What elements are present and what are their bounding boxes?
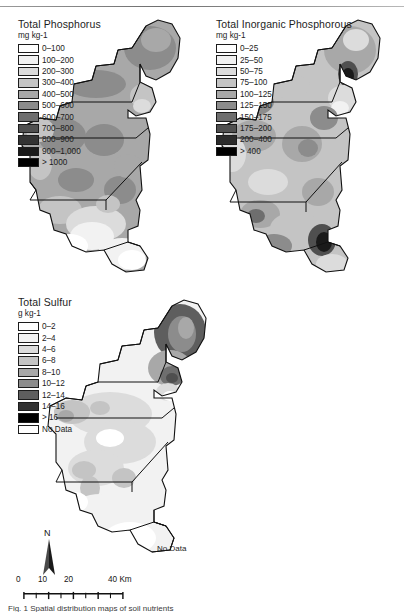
legend-swatch	[18, 112, 39, 121]
legend-item-label: 125–150	[240, 101, 272, 110]
legend-item-label: 10–12	[42, 379, 65, 388]
legend-swatch	[216, 78, 237, 87]
legend-title: Total Inorganic Phosphorous	[216, 18, 352, 30]
legend-item-label: 200–300	[42, 67, 74, 76]
legend-item-label: 100–200	[42, 56, 74, 65]
legend-item-label: 8–10	[42, 368, 60, 377]
legend-item: 200–300	[18, 66, 101, 77]
legend-item-label: 75–100	[240, 78, 267, 87]
legend-item-label: > 1000	[42, 158, 67, 167]
legend-total-phosphorus: Total Phosphorus mg kg-1 0–100 100–200 2…	[18, 18, 101, 168]
legend-item: No Data	[18, 424, 72, 435]
legend-swatch	[18, 44, 39, 53]
legend-swatch	[18, 402, 39, 411]
map-panel-total-phosphorus: Total Phosphorus mg kg-1 0–100 100–200 2…	[0, 14, 204, 282]
legend-item-label: 200–400	[240, 135, 272, 144]
legend-item: > 400	[216, 146, 352, 157]
legend-swatch	[18, 67, 39, 76]
legend-item: > 16	[18, 412, 72, 423]
legend-item: 2–4	[18, 332, 72, 343]
legend-swatch	[18, 425, 39, 434]
header-rule	[0, 6, 404, 7]
legend-item: 150–175	[216, 111, 352, 122]
legend-item: 12–14	[18, 389, 72, 400]
legend-item: > 1000	[18, 157, 101, 168]
legend-item: 175–200	[216, 123, 352, 134]
legend-swatch	[216, 112, 237, 121]
map-panel-total-inorganic-phosphorous: Total Inorganic Phosphorous mg kg-1 0–25…	[198, 14, 404, 282]
scale-bar: 0 10 20 40 Km	[16, 575, 138, 604]
legend-item: 800–900	[18, 134, 101, 145]
legend-swatch	[18, 356, 39, 365]
legend-swatch	[216, 90, 237, 99]
scale-bar-graphic	[16, 591, 138, 600]
legend-item-label: 150–175	[240, 113, 272, 122]
legend-item: 400–500	[18, 89, 101, 100]
scale-tick-label: 0	[16, 575, 21, 584]
legend-item: 600–700	[18, 111, 101, 122]
legend-item-label: 2–4	[42, 334, 56, 343]
legend-item: 4–6	[18, 344, 72, 355]
legend-item-label: 175–200	[240, 124, 272, 133]
legend-item: 100–125	[216, 89, 352, 100]
legend-class-list: 0–2 2–4 4–6 6–8 8–10	[18, 321, 72, 435]
legend-swatch	[216, 101, 237, 110]
legend-item: 10–12	[18, 378, 72, 389]
legend-item: 50–75	[216, 66, 352, 77]
legend-item-label: 0–2	[42, 322, 56, 331]
legend-item: 14–16	[18, 401, 72, 412]
legend-swatch	[18, 55, 39, 64]
map-annotation-no-data: No Data	[157, 544, 186, 553]
scale-tick-label: 20	[64, 575, 73, 584]
figure-root: Total Phosphorus mg kg-1 0–100 100–200 2…	[0, 0, 404, 612]
legend-item-label: 400–500	[42, 90, 74, 99]
legend-item-label: 600–700	[42, 113, 74, 122]
legend-item: 0–2	[18, 321, 72, 332]
legend-item-label: 900–1,000	[42, 147, 81, 156]
legend-item: 100–200	[18, 54, 101, 65]
legend-class-list: 0–25 25–50 50–75 75–100 100–125	[216, 43, 352, 157]
legend-swatch	[18, 333, 39, 342]
north-arrow-icon	[36, 539, 62, 577]
legend-item-label: 12–14	[42, 391, 65, 400]
legend-swatch	[216, 124, 237, 133]
legend-swatch	[18, 135, 39, 144]
legend-item: 900–1,000	[18, 146, 101, 157]
legend-swatch	[18, 322, 39, 331]
figure-caption: Fig. 1 Spatial distribution maps of soil…	[8, 604, 400, 612]
legend-units: g kg-1	[18, 309, 72, 319]
legend-item-label: > 16	[42, 413, 58, 422]
legend-swatch	[18, 78, 39, 87]
legend-title: Total Sulfur	[18, 296, 72, 308]
legend-item-label: 700–800	[42, 124, 74, 133]
legend-item-label: 14–16	[42, 402, 65, 411]
legend-item: 75–100	[216, 77, 352, 88]
legend-item-label: 300–400	[42, 78, 74, 87]
scale-bar-labels: 0 10 20 40 Km	[16, 575, 138, 586]
legend-swatch	[18, 390, 39, 399]
scale-tick-label: 10	[38, 575, 47, 584]
legend-swatch	[216, 67, 237, 76]
legend-item-label: No Data	[42, 425, 72, 434]
legend-swatch	[18, 90, 39, 99]
legend-item: 500–600	[18, 100, 101, 111]
legend-item: 25–50	[216, 54, 352, 65]
legend-item-label: > 400	[240, 147, 261, 156]
legend-swatch	[18, 124, 39, 133]
legend-swatch	[18, 158, 39, 167]
legend-swatch	[18, 345, 39, 354]
legend-units: mg kg-1	[18, 31, 101, 41]
legend-item-label: 25–50	[240, 56, 263, 65]
legend-item: 0–25	[216, 43, 352, 54]
legend-item-label: 0–25	[240, 44, 258, 53]
legend-swatch	[216, 135, 237, 144]
legend-item: 0–100	[18, 43, 101, 54]
legend-item-label: 0–100	[42, 44, 65, 53]
scale-end-label: 40 Km	[108, 575, 132, 584]
legend-item-label: 50–75	[240, 67, 263, 76]
legend-item: 6–8	[18, 355, 72, 366]
legend-swatch	[18, 101, 39, 110]
legend-item: 200–400	[216, 134, 352, 145]
legend-item-label: 4–6	[42, 345, 56, 354]
legend-total-sulfur: Total Sulfur g kg-1 0–2 2–4 4–6 6–8	[18, 296, 72, 435]
